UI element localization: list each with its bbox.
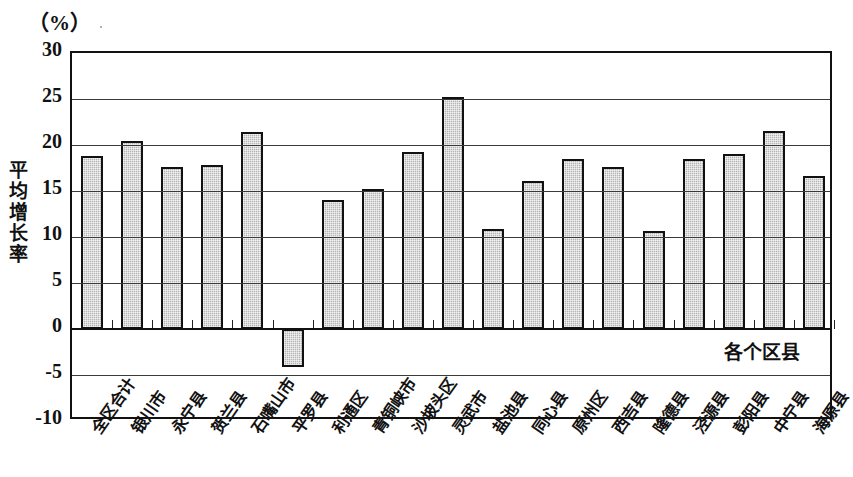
x-category-label: 利通区: [325, 385, 372, 438]
x-category-label: 泾源县: [686, 385, 733, 438]
x-category-label: 海原县: [806, 385, 853, 438]
x-category-label: 中宁县: [766, 385, 813, 438]
x-category-label: 盐池县: [485, 385, 532, 438]
x-category-label: 永宁县: [164, 385, 211, 438]
x-category-label: 同心县: [525, 385, 572, 438]
x-category-label: 西吉县: [605, 385, 652, 438]
x-category-label: 彭阳县: [726, 385, 773, 438]
x-category-label: 隆德县: [646, 385, 693, 438]
x-category-label: 贺兰县: [204, 385, 251, 438]
x-category-label: 原州区: [565, 385, 612, 438]
